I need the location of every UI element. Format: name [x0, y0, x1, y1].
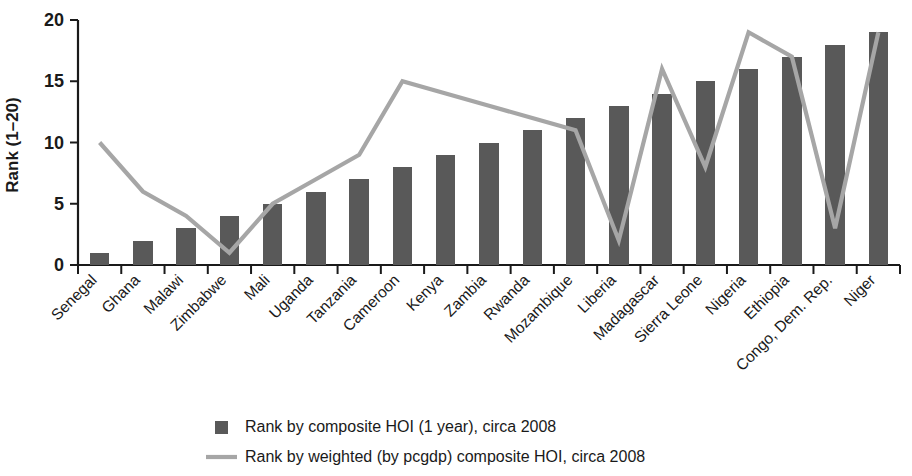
bar-nigeria — [739, 69, 758, 265]
bar-cameroon — [393, 167, 412, 265]
legend-swatch-bar — [215, 421, 228, 434]
y-axis-title-text: Rank (1–20) — [3, 97, 22, 192]
x-axis-category-labels: SenegalGhanaMalawiZimbabweMaliUgandaTanz… — [48, 271, 879, 374]
bar-senegal — [90, 253, 109, 265]
y-tick-label: 15 — [44, 71, 64, 91]
chart-axes: 05101520 — [44, 10, 900, 275]
legend-label: Rank by weighted (by pcgdp) composite HO… — [245, 448, 645, 465]
bar-congo-dem-rep — [825, 45, 844, 266]
bar-rwanda — [523, 130, 542, 265]
y-axis-title: Rank (1–20) — [3, 97, 22, 192]
bar-tanzania — [349, 179, 368, 265]
bar-madagascar — [652, 94, 671, 266]
chart-svg: Rank (1–20) 05101520 SenegalGhanaMalawiZ… — [0, 0, 912, 476]
y-tick-label: 5 — [54, 194, 64, 214]
legend-label: Rank by composite HOI (1 year), circa 20… — [245, 418, 556, 435]
bar-mozambique — [566, 118, 585, 265]
chart-figure: Rank (1–20) 05101520 SenegalGhanaMalawiZ… — [0, 0, 912, 476]
y-tick-label: 10 — [44, 133, 64, 153]
bar-sierra-leone — [696, 81, 715, 265]
bar-kenya — [436, 155, 455, 265]
x-category-label: Ghana — [98, 271, 143, 316]
bar-series — [90, 32, 888, 265]
bar-zambia — [479, 143, 498, 266]
bar-ghana — [133, 241, 152, 266]
x-category-label: Mali — [241, 271, 273, 303]
chart-legend: Rank by composite HOI (1 year), circa 20… — [206, 418, 645, 465]
y-tick-label: 20 — [44, 10, 64, 30]
x-category-label: Senegal — [48, 271, 100, 323]
x-category-label: Niger — [840, 271, 878, 309]
bar-zimbabwe — [220, 216, 239, 265]
bar-malawi — [176, 228, 195, 265]
y-tick-label: 0 — [54, 255, 64, 275]
bar-uganda — [306, 192, 325, 266]
